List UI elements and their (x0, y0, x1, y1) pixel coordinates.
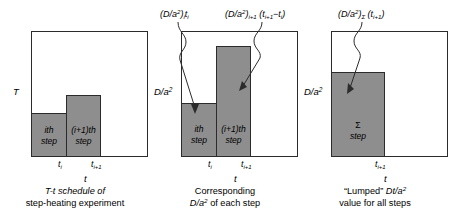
bar-i-plus-1-th-step: (i+1)th step (66, 95, 101, 157)
x-tick-ti-plus-1: ti+1 (241, 159, 252, 169)
caption-line-2: value for all steps (339, 198, 411, 208)
panel-caption: “Lumped” Dt/a2 value for all steps (300, 186, 450, 209)
bar-label-ith-line1: ith (32, 125, 66, 136)
bar-label-iplus1-line2: step (217, 135, 250, 146)
x-tick-ti: ti (208, 159, 212, 169)
caption-line-1: T-t schedule of (45, 186, 105, 196)
x-axis-label-time: t (384, 173, 387, 184)
panel-t-t-schedule: T ith step (i+1)th step ti ti+1 t T-t sc… (0, 0, 150, 221)
panel-caption: T-t schedule of step-heating experiment (0, 186, 150, 209)
bar-label-sigma-line1: Σ (332, 120, 384, 131)
caption-line-1: “Lumped” Dt/a2 (344, 186, 406, 196)
x-axis-label-time: t (234, 173, 237, 184)
bar-sigma-step: Σ step (331, 72, 385, 157)
y-axis-label-temperature: T (13, 86, 19, 97)
y-axis-label-d-over-a2: D/a2 (304, 86, 322, 97)
caption-line-2: D/a2 (190, 198, 208, 208)
y-axis-label-d-over-a2: D/a2 (154, 86, 172, 97)
bar-label-iplus1-line1: (i+1)th (217, 124, 250, 135)
bar-i-plus-1-th-step: (i+1)th step (216, 46, 251, 157)
panel-corresponding-d-over-a2: D/a2 ith step (i+1)th step ti ti+1 t (D/… (150, 0, 300, 221)
bar-ith-step: ith step (181, 103, 217, 157)
x-axis-label-time: t (84, 173, 87, 184)
bar-label-ith-line2: step (182, 135, 216, 146)
caption-line-2-rest: of each step (208, 198, 261, 208)
x-tick-ti-plus-1: ti+1 (375, 159, 386, 169)
annotation-lumped-area-label: (D/a2)Σ (ti+1) (338, 9, 384, 19)
panel-lumped-value: D/a2 Σ step ti+1 t (D/a2)Σ (ti+1) “Lumpe… (300, 0, 450, 221)
bar-label-ith-line2: step (32, 136, 66, 147)
annotation-ith-area-label: (D/a2)iti (160, 9, 189, 19)
bar-label-ith-line1: ith (182, 124, 216, 135)
figure-root: T ith step (i+1)th step ti ti+1 t T-t sc… (0, 0, 460, 221)
x-tick-ti: ti (58, 159, 62, 169)
bar-ith-step: ith step (31, 113, 67, 157)
caption-line-1: Corresponding (195, 186, 255, 196)
x-tick-ti-plus-1: ti+1 (91, 159, 102, 169)
bar-label-iplus1-line2: step (67, 136, 100, 147)
bar-label-iplus1-line1: (i+1)th (67, 125, 100, 136)
annotation-i-plus-1-area-label: (D/a2)i+1 (ti+1−ti) (225, 9, 285, 19)
bar-label-sigma-line2: step (332, 131, 384, 142)
caption-line-2: step-heating experiment (26, 198, 125, 208)
panel-caption: Corresponding D/a2 of each step (150, 186, 300, 209)
